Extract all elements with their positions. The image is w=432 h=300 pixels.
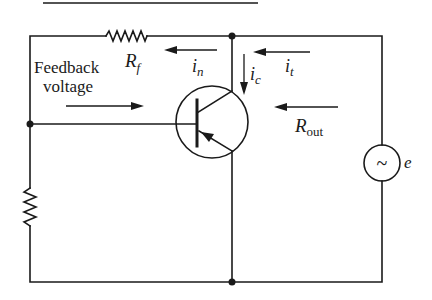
ground-node	[229, 279, 236, 286]
pnp-transistor	[176, 86, 248, 158]
feedback-label-line1: Feedback	[34, 58, 100, 77]
arrow-ic	[240, 54, 248, 95]
feedback-label-line2: voltage	[43, 77, 93, 96]
rout-label: Rout	[294, 115, 324, 139]
sine-wave-icon: ~	[377, 152, 388, 174]
bottom-wire	[30, 181, 382, 282]
arrow-rout	[274, 103, 338, 111]
arrow-feedback	[66, 102, 144, 110]
feedback-resistor-rf	[106, 31, 147, 41]
source-label: e	[404, 153, 412, 172]
ic-label: ic	[250, 64, 261, 87]
emitter-arrow-icon	[201, 132, 214, 142]
rf-label: Rf	[124, 50, 143, 75]
base-resistor	[24, 188, 36, 226]
in-label: in	[192, 56, 204, 79]
arrow-it	[253, 48, 310, 56]
it-label: it	[285, 56, 294, 79]
arrow-in	[164, 46, 217, 54]
ac-source: ~	[364, 145, 400, 181]
circuit-diagram: ~ e Feedback voltage Rf in ic i	[0, 0, 432, 300]
